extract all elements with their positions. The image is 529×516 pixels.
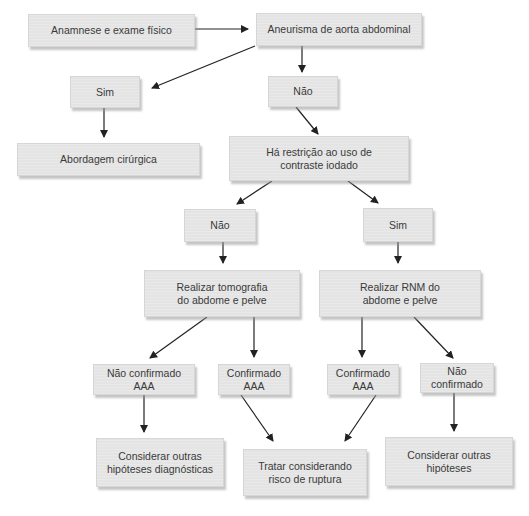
arrow-rnm-to-nao-confirmado bbox=[414, 317, 453, 358]
node-tomografia-label-line1: Realizar tomografia bbox=[176, 281, 267, 294]
node-confirmado-aaa-tc-line1: Confirmado bbox=[227, 367, 281, 380]
node-outras-line2: hipóteses bbox=[427, 462, 472, 475]
node-outras-line1: Considerar outras bbox=[407, 449, 490, 462]
node-anamnese: Anamnese e exame físico bbox=[28, 14, 195, 47]
node-outras-hipoteses-diagnosticas: Considerar outras hipóteses diagnósticas bbox=[96, 438, 224, 487]
node-sim-label: Sim bbox=[96, 86, 114, 99]
arrow-nao-to-restricao bbox=[296, 107, 318, 134]
node-tomografia: Realizar tomografia do abdome e pelve bbox=[144, 270, 300, 317]
node-confirmado-aaa-rnm-line2: AAA bbox=[352, 380, 373, 393]
arrow-restricao-to-sim bbox=[348, 181, 378, 203]
node-rnm-label-line2: abdome e pelve bbox=[363, 294, 438, 307]
node-anamnese-label: Anamnese e exame físico bbox=[51, 24, 172, 37]
arrow-restricao-to-nao bbox=[237, 181, 272, 204]
node-rnm-label-line1: Realizar RNM do bbox=[360, 281, 440, 294]
node-confirmado-aaa-tc-line2: AAA bbox=[243, 380, 264, 393]
node-nao-confirmado-rnm-line1: Não bbox=[447, 365, 466, 378]
node-tratar-line2: risco de ruptura bbox=[269, 473, 342, 486]
node-outras-diag-line1: Considerar outras bbox=[118, 450, 201, 463]
node-sim-restricao-label: Sim bbox=[389, 219, 407, 232]
node-abordagem-cirurgica: Abordagem cirúrgica bbox=[17, 143, 200, 176]
node-tratar-line1: Tratar considerando bbox=[258, 460, 352, 473]
node-sim-cirurgia: Sim bbox=[70, 76, 140, 108]
node-restricao-label-line1: Há restrição ao uso de bbox=[266, 146, 372, 159]
node-nao-confirmado-aaa: Não confirmado AAA bbox=[93, 364, 195, 395]
node-confirmado-aaa-tc: Confirmado AAA bbox=[218, 364, 290, 395]
node-restricao-label-line2: contraste iodado bbox=[280, 159, 358, 172]
node-nao-label: Não bbox=[293, 85, 312, 98]
node-abordagem-label: Abordagem cirúrgica bbox=[60, 153, 157, 166]
node-nao-confirmado-rnm: Não confirmado bbox=[420, 363, 494, 393]
node-sim-restricao: Sim bbox=[363, 208, 433, 242]
flowchart-canvas: Anamnese e exame físico Aneurisma de aor… bbox=[0, 0, 529, 516]
arrow-tomografia-to-nao-confirmado bbox=[150, 317, 207, 358]
node-tratar-risco-ruptura: Tratar considerando risco de ruptura bbox=[243, 449, 367, 496]
node-confirmado-aaa-rnm-line1: Confirmado bbox=[336, 367, 390, 380]
node-nao-confirmado-rnm-line2: confirmado bbox=[431, 378, 483, 391]
arrow-confirmado-rnm-to-tratar bbox=[345, 395, 376, 441]
arrow-confirmado-tc-to-tratar bbox=[241, 395, 273, 441]
node-nao-confirmado-aaa-line1: Não confirmado bbox=[107, 367, 181, 380]
node-nao-confirmado-aaa-line2: AAA bbox=[133, 380, 154, 393]
node-tomografia-label-line2: do abdome e pelve bbox=[177, 294, 266, 307]
node-nao-restricao: Não bbox=[184, 209, 256, 242]
node-outras-hipoteses: Considerar outras hipóteses bbox=[385, 437, 513, 486]
node-aneurisma-label: Aneurisma de aorta abdominal bbox=[267, 23, 410, 36]
node-rnm: Realizar RNM do abdome e pelve bbox=[319, 270, 481, 317]
node-confirmado-aaa-rnm: Confirmado AAA bbox=[327, 364, 399, 395]
node-restricao-contraste: Há restrição ao uso de contraste iodado bbox=[229, 136, 409, 181]
node-outras-diag-line2: hipóteses diagnósticas bbox=[107, 463, 213, 476]
node-aneurisma: Aneurisma de aorta abdominal bbox=[256, 13, 422, 46]
node-nao-restricao-label: Não bbox=[210, 219, 229, 232]
arrow-aneurisma-to-sim bbox=[152, 46, 255, 88]
node-nao-cirurgia: Não bbox=[268, 76, 338, 107]
